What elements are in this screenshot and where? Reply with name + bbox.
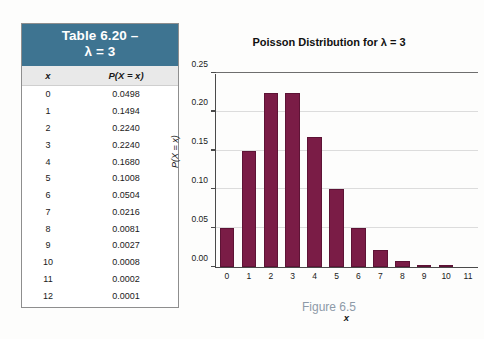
- cell-x-value: 4: [22, 157, 74, 167]
- table-column-header-row: x P(X = x): [22, 66, 178, 86]
- y-axis-tick-label: 0.05: [191, 214, 208, 224]
- table-title: Table 6.20 – λ = 3: [22, 24, 178, 66]
- bar: [220, 228, 234, 267]
- bar: [417, 265, 431, 267]
- table-row: 60.0504: [22, 187, 178, 204]
- y-axis-tick: [211, 110, 216, 111]
- x-axis-tick-label: 3: [290, 271, 295, 281]
- table-row: 50.1008: [22, 170, 178, 187]
- cell-probability-value: 0.0504: [74, 190, 178, 200]
- y-axis-tick-label: 0.20: [191, 97, 208, 107]
- bar: [264, 93, 278, 267]
- cell-probability-value: 0.0002: [74, 274, 178, 284]
- x-axis-tick-label: 11: [464, 271, 473, 281]
- bar: [395, 261, 409, 267]
- y-axis-tick-label: 0.25: [191, 59, 208, 69]
- x-axis-tick-label: 6: [356, 271, 361, 281]
- y-axis-tick-label: 0.15: [191, 136, 208, 146]
- cell-x-value: 2: [22, 123, 74, 133]
- bar: [439, 265, 453, 267]
- table-row: 100.0008: [22, 254, 178, 271]
- column-header-x: x: [22, 70, 74, 81]
- cell-x-value: 12: [22, 291, 74, 301]
- cell-probability-value: 0.0008: [74, 257, 178, 267]
- y-axis-tick: [211, 149, 216, 150]
- y-axis-tick-label: 0.00: [191, 253, 208, 263]
- cell-probability-value: 0.1680: [74, 157, 178, 167]
- y-axis-tick: [211, 188, 216, 189]
- cell-x-value: 7: [22, 207, 74, 217]
- cell-probability-value: 0.0081: [74, 224, 178, 234]
- x-axis-tick-label: 0: [225, 271, 230, 281]
- x-axis-tick-label: 5: [334, 271, 339, 281]
- cell-x-value: 10: [22, 257, 74, 267]
- x-axis-tick-label: 2: [268, 271, 273, 281]
- cell-x-value: 5: [22, 173, 74, 183]
- poisson-bar-chart: Poisson Distribution for λ = 3 P(X = x) …: [176, 36, 482, 326]
- table-row: 70.0216: [22, 203, 178, 220]
- table-row: 40.1680: [22, 153, 178, 170]
- x-axis-tick-label: 1: [247, 271, 252, 281]
- table-row: 10.1494: [22, 103, 178, 120]
- cell-x-value: 11: [22, 274, 74, 284]
- chart-title: Poisson Distribution for λ = 3: [176, 36, 482, 48]
- table-row: 30.2240: [22, 136, 178, 153]
- bar: [242, 151, 256, 267]
- cell-x-value: 6: [22, 190, 74, 200]
- table-row: 110.0002: [22, 271, 178, 288]
- probability-table: Table 6.20 – λ = 3 x P(X = x) 00.049810.…: [21, 23, 179, 308]
- table-row: 20.2240: [22, 120, 178, 137]
- bar: [373, 250, 387, 267]
- y-axis-tick: [211, 266, 216, 267]
- bar: [351, 228, 365, 267]
- cell-probability-value: 0.0027: [74, 240, 178, 250]
- x-axis-tick-label: 9: [422, 271, 427, 281]
- x-axis-tick-label: 7: [378, 271, 383, 281]
- figure-caption: Figure 6.5: [176, 300, 482, 314]
- y-axis-tick: [211, 72, 216, 73]
- cell-probability-value: 0.2240: [74, 123, 178, 133]
- cell-x-value: 0: [22, 89, 74, 99]
- table-row: 120.0001: [22, 287, 178, 304]
- table-title-line-1: Table 6.20 –: [22, 28, 178, 44]
- table-row: 90.0027: [22, 237, 178, 254]
- plot-area: 0.000.050.100.150.200.2501234567891011: [215, 74, 478, 268]
- table-row: 80.0081: [22, 220, 178, 237]
- y-axis-title: P(X = x): [170, 135, 180, 168]
- cell-probability-value: 0.1494: [74, 106, 178, 116]
- x-axis-tick-label: 8: [400, 271, 405, 281]
- cell-probability-value: 0.1008: [74, 173, 178, 183]
- cell-x-value: 1: [22, 106, 74, 116]
- column-header-probability: P(X = x): [74, 70, 178, 81]
- table-body: 00.049810.149420.224030.224040.168050.10…: [22, 86, 178, 307]
- cell-probability-value: 0.0001: [74, 291, 178, 301]
- cell-probability-value: 0.0216: [74, 207, 178, 217]
- cell-x-value: 8: [22, 224, 74, 234]
- y-axis-tick-label: 0.10: [191, 175, 208, 185]
- bar: [307, 137, 321, 267]
- cell-probability-value: 0.2240: [74, 140, 178, 150]
- x-axis-tick-label: 10: [441, 271, 450, 281]
- x-axis-tick-label: 4: [312, 271, 317, 281]
- gridline: [216, 72, 478, 73]
- cell-x-value: 3: [22, 140, 74, 150]
- bar: [329, 189, 343, 267]
- cell-x-value: 9: [22, 240, 74, 250]
- y-axis-tick: [211, 227, 216, 228]
- cell-probability-value: 0.0498: [74, 89, 178, 99]
- gridline: [216, 111, 478, 112]
- table-title-line-2: λ = 3: [22, 44, 178, 60]
- bar: [285, 93, 299, 267]
- table-row: 00.0498: [22, 86, 178, 103]
